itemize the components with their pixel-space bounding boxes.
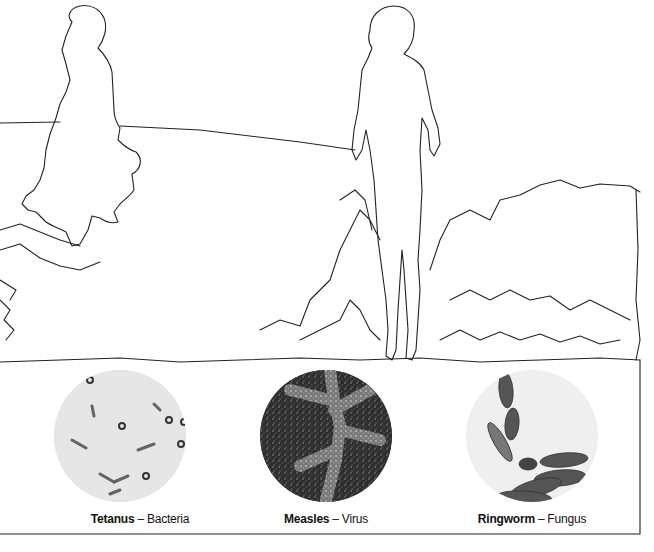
- virus-illustration: [260, 370, 392, 502]
- measles-microscope-view: [260, 370, 392, 502]
- specimen-name: Tetanus: [91, 512, 135, 526]
- tetanus-microscope-view: [54, 370, 186, 502]
- specimen-name: Ringworm: [478, 512, 535, 526]
- tetanus-caption: Tetanus–Bacteria: [90, 512, 190, 526]
- fungus-illustration: [466, 370, 598, 502]
- ground-line: [0, 358, 640, 362]
- ringworm-caption: Ringworm–Fungus: [472, 512, 592, 526]
- bacteria-illustration: [54, 370, 186, 502]
- specimen-name: Measles: [284, 512, 329, 526]
- measles-caption: Measles–Virus: [276, 512, 376, 526]
- specimen-type: Fungus: [547, 512, 586, 526]
- right-child-silhouette: [352, 6, 440, 360]
- vegetation-middle: [260, 190, 380, 340]
- vegetation-left: [0, 224, 100, 340]
- specimen-type: Virus: [342, 512, 368, 526]
- vegetation-right: [430, 180, 640, 360]
- ringworm-microscope-view: [466, 370, 598, 502]
- specimen-type: Bacteria: [147, 512, 189, 526]
